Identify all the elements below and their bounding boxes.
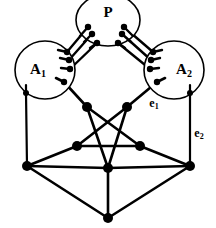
port-dot-p-right-3 [115, 40, 121, 46]
outer-frame-edge-group [27, 146, 190, 218]
diagram-canvas: P A1 A2 e1 e2 [0, 0, 216, 228]
edge-label-e2: e2 [194, 126, 203, 141]
edge-upper-right-to-mid-left [77, 107, 127, 146]
node-upper-right [122, 102, 132, 112]
edge-upper-right-to-star-bottom [108, 107, 127, 168]
node-mid-right [135, 141, 145, 151]
edge-corner-right-to-bottom-node [108, 166, 190, 218]
port-dot-a1-right-4 [61, 79, 67, 85]
graph-svg: P A1 A2 e1 e2 [0, 0, 216, 228]
port-dot-p-left-1 [85, 24, 91, 30]
node-mid-left [72, 141, 82, 151]
edge-corner-right-to-star-bottom [108, 166, 190, 168]
node-star-bottom [103, 163, 113, 173]
port-dot-a2-left-1 [150, 49, 156, 55]
port-dot-a1-bottom [23, 90, 29, 96]
blob-label-p: P [103, 4, 112, 20]
edge-label-e1: e1 [149, 96, 158, 111]
port-dot-a2-left-4 [154, 79, 160, 85]
port-dot-a2-left-3 [147, 66, 153, 72]
pentagram-edge-group [77, 107, 140, 168]
edge-corner-left-to-star-bottom [27, 166, 108, 168]
node-bottom [103, 213, 113, 223]
node-upper-left [82, 102, 92, 112]
port-dot-a2-bottom [187, 90, 193, 96]
port-dot-a2-left-2 [148, 57, 154, 63]
port-dot-a1-right-2 [66, 57, 72, 63]
port-dot-p-left-2 [89, 31, 95, 37]
edge-mid-right-to-corner-right [140, 146, 190, 166]
node-corner-right [185, 161, 195, 171]
port-dot-p-left-3 [94, 40, 100, 46]
port-dot-a1-right-1 [64, 49, 70, 55]
port-dot-a1-right-3 [67, 66, 73, 72]
port-dot-p-right-1 [121, 24, 127, 30]
edge-mid-left-to-corner-left [27, 146, 77, 166]
edge-e1-a1-to-corner-left [26, 93, 27, 166]
port-dot-p-right-2 [119, 31, 125, 37]
node-corner-left [22, 161, 32, 171]
edge-corner-left-to-bottom-node [27, 166, 108, 218]
